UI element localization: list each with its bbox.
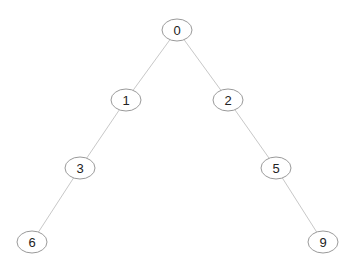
edge-3-6 [32,168,80,242]
node-label: 9 [319,235,326,250]
edge-0-2 [177,30,228,100]
node-label: 6 [28,235,35,250]
node-0: 0 [162,19,192,41]
node-label: 5 [272,161,279,176]
node-2: 2 [213,89,243,111]
node-3: 3 [65,157,95,179]
edge-0-1 [126,30,177,100]
node-1: 1 [111,89,141,111]
node-9: 9 [308,231,338,253]
node-5: 5 [261,157,291,179]
node-label: 3 [76,161,83,176]
node-label: 0 [173,23,180,38]
node-label: 1 [122,93,129,108]
tree-diagram: 0 1 2 3 5 6 9 [0,0,357,270]
edge-5-9 [276,168,323,242]
node-label: 2 [224,93,231,108]
node-6: 6 [17,231,47,253]
edges [32,30,323,242]
